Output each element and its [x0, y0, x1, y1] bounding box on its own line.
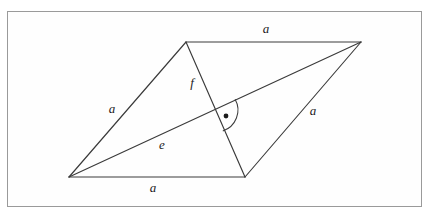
rhombus-diagram: a a a a e f	[0, 0, 433, 218]
label-top-edge-a: a	[263, 21, 270, 36]
label-left-edge-a: a	[109, 101, 116, 116]
label-right-edge-a: a	[310, 103, 317, 118]
short-diagonal-f	[186, 42, 245, 177]
figure-screenshot: a a a a e f	[0, 0, 433, 218]
right-edge	[245, 42, 361, 177]
right-angle-dot	[224, 114, 229, 119]
label-short-diagonal-f: f	[190, 75, 196, 90]
label-bottom-edge-a: a	[150, 180, 157, 195]
left-edge	[69, 42, 186, 177]
label-long-diagonal-e: e	[159, 137, 165, 152]
